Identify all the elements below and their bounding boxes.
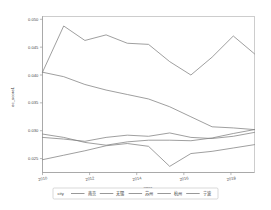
chart-container: 0.0250.0300.0350.0400.0450.050 201020122… (0, 0, 271, 210)
legend-label-3: 杭州 (174, 190, 182, 197)
legend-label-1: 无锡 (116, 190, 124, 197)
x-tick-label: 2010 (38, 175, 49, 182)
legend-label-0: 南京 (88, 190, 96, 197)
x-tick-label: 2016 (179, 175, 190, 182)
y-tick-label: 0.050 (28, 17, 39, 22)
series-line-1 (43, 72, 255, 129)
y-tick-label: 0.040 (28, 73, 39, 78)
legend-label-4: 宁波 (203, 190, 212, 197)
y-tick-label: 0.045 (28, 45, 39, 50)
series-layer (43, 26, 255, 166)
y-tick-label: 0.025 (28, 156, 39, 161)
x-axis-ticks: 20102012201420162018 (38, 173, 237, 183)
legend-title: city (58, 191, 65, 196)
plot-frame (43, 17, 255, 173)
x-tick-label: 2014 (132, 175, 143, 182)
x-tick-label: 2012 (85, 175, 96, 182)
series-line-4 (43, 144, 255, 167)
line-chart: 0.0250.0300.0350.0400.0450.050 201020122… (0, 0, 271, 210)
x-tick-label: 2018 (226, 175, 237, 182)
series-line-0 (43, 26, 255, 75)
y-tick-label: 0.035 (28, 100, 39, 105)
y-axis-title: ec_score1 (10, 86, 15, 106)
chart-legend: city南京无锡苏州杭州宁波 (53, 188, 218, 199)
y-tick-label: 0.030 (28, 128, 39, 133)
y-axis-ticks: 0.0250.0300.0350.0400.0450.050 (28, 17, 42, 161)
legend-label-2: 苏州 (145, 190, 153, 197)
